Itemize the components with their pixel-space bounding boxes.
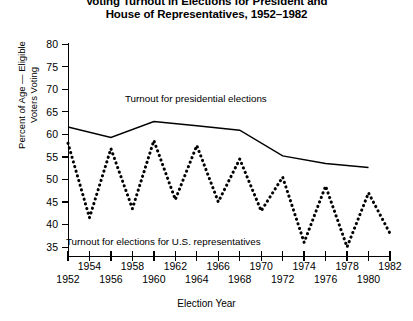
x-tick-label-1978: 1978 bbox=[330, 261, 364, 272]
y-tick-label-40: 40 bbox=[18, 219, 58, 229]
y-tick-70 bbox=[62, 89, 68, 90]
y-tick-65 bbox=[62, 111, 68, 112]
x-tick-1980 bbox=[368, 251, 369, 261]
y-axis-line bbox=[68, 43, 69, 257]
series-congressional-line bbox=[68, 141, 390, 247]
x-tick-label-1972: 1972 bbox=[266, 274, 300, 285]
y-tick-label-50: 50 bbox=[18, 174, 58, 184]
y-tick-label-60: 60 bbox=[18, 129, 58, 139]
x-tick-1960 bbox=[153, 251, 154, 261]
x-tick-label-1970: 1970 bbox=[244, 261, 278, 272]
y-tick-label-75: 75 bbox=[18, 62, 58, 72]
y-tick-55 bbox=[62, 156, 68, 157]
series-presidential-line bbox=[68, 122, 369, 168]
x-tick-label-1982: 1982 bbox=[373, 261, 407, 272]
y-tick-label-35: 35 bbox=[18, 242, 58, 252]
y-tick-label-45: 45 bbox=[18, 197, 58, 207]
chart-title-line-1: Voting Turnout in Elections for Presiden… bbox=[0, 0, 413, 8]
x-tick-label-1974: 1974 bbox=[287, 261, 321, 272]
x-tick-label-1968: 1968 bbox=[223, 274, 257, 285]
x-tick-1952 bbox=[67, 251, 68, 261]
y-tick-50 bbox=[62, 179, 68, 180]
x-tick-label-1962: 1962 bbox=[158, 261, 192, 272]
chart-title-line-2: House of Representatives, 1952–1982 bbox=[0, 8, 413, 21]
y-tick-label-70: 70 bbox=[18, 84, 58, 94]
x-tick-label-1952: 1952 bbox=[51, 274, 85, 285]
y-tick-label-65: 65 bbox=[18, 107, 58, 117]
x-tick-1972 bbox=[282, 251, 283, 261]
annotation-presidential: Turnout for presidential elections bbox=[125, 93, 267, 104]
x-tick-label-1956: 1956 bbox=[94, 274, 128, 285]
x-tick-1976 bbox=[325, 251, 326, 261]
x-tick-1964 bbox=[196, 251, 197, 261]
y-tick-45 bbox=[62, 201, 68, 202]
x-axis-title: Election Year bbox=[0, 298, 413, 309]
x-tick-label-1976: 1976 bbox=[309, 274, 343, 285]
y-tick-80 bbox=[62, 44, 68, 45]
x-tick-label-1966: 1966 bbox=[201, 261, 235, 272]
x-tick-1956 bbox=[110, 251, 111, 261]
y-tick-40 bbox=[62, 224, 68, 225]
x-tick-label-1958: 1958 bbox=[115, 261, 149, 272]
x-tick-label-1964: 1964 bbox=[180, 274, 214, 285]
y-tick-label-55: 55 bbox=[18, 152, 58, 162]
chart-title: Voting Turnout in Elections for Presiden… bbox=[0, 0, 413, 21]
x-tick-1968 bbox=[239, 251, 240, 261]
x-tick-label-1960: 1960 bbox=[137, 274, 171, 285]
chart-container: Voting Turnout in Elections for Presiden… bbox=[0, 0, 413, 321]
y-tick-label-80: 80 bbox=[18, 39, 58, 49]
annotation-congressional: Turnout for elections for U.S. represent… bbox=[66, 236, 261, 247]
y-tick-75 bbox=[62, 66, 68, 67]
x-tick-label-1954: 1954 bbox=[72, 261, 106, 272]
y-axis-tick-labels: 80757065605550454035 bbox=[14, 0, 58, 321]
y-tick-60 bbox=[62, 134, 68, 135]
x-tick-label-1980: 1980 bbox=[352, 274, 386, 285]
x-axis-line bbox=[68, 256, 391, 257]
